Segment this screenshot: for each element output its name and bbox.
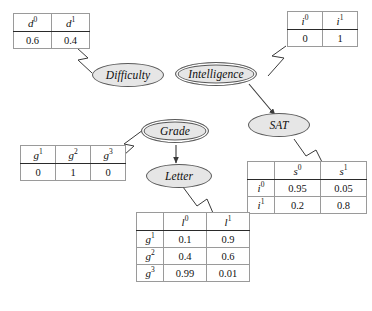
- cell-row-header: g3: [137, 265, 164, 282]
- cell-header: i0: [288, 12, 323, 30]
- table-row: i0 i1: [288, 12, 358, 30]
- cell-corner: [137, 213, 164, 231]
- leader-intelligence-table: [268, 46, 286, 76]
- leader-sat-table: [294, 139, 322, 162]
- node-grade-label: Grade: [160, 125, 190, 137]
- bayesian-network-diagram: Difficulty Intelligence Grade SAT Letter…: [0, 0, 372, 311]
- cell-header: g1: [21, 146, 56, 164]
- cell-header: d1: [52, 14, 90, 32]
- cell-header: g2: [56, 146, 91, 164]
- cell-value: 0.4: [164, 248, 207, 265]
- cell-value: 0: [91, 164, 126, 181]
- cell-header: g3: [91, 146, 126, 164]
- node-difficulty[interactable]: Difficulty: [92, 63, 164, 87]
- cell-value: 0.95: [275, 180, 321, 197]
- cell-value: 0: [288, 30, 323, 47]
- cell-header: s1: [321, 162, 367, 180]
- table-row: g1 0.1 0.9: [137, 231, 250, 248]
- table-row: 0 1: [288, 30, 358, 47]
- cell-value: 0.05: [321, 180, 367, 197]
- cell-row-header: i0: [248, 180, 275, 197]
- node-difficulty-label: Difficulty: [106, 69, 150, 81]
- cell-value: 1: [323, 30, 358, 47]
- leader-letter-table: [183, 187, 213, 213]
- cell-value: 0.99: [164, 265, 207, 282]
- cell-value: 0: [21, 164, 56, 181]
- table-row: i0 0.95 0.05: [248, 180, 367, 197]
- cpt-intelligence: i0 i1 0 1: [287, 11, 358, 47]
- cell-row-header: g1: [137, 231, 164, 248]
- table-row: g2 0.4 0.6: [137, 248, 250, 265]
- table-row: d0 d1: [14, 14, 90, 32]
- table-row: 0.6 0.4: [14, 32, 90, 49]
- edge-intelligence-to-sat: [249, 84, 275, 115]
- cell-row-header: g2: [137, 248, 164, 265]
- cpt-difficulty: d0 d1 0.6 0.4: [13, 13, 90, 49]
- node-sat-label: SAT: [269, 119, 288, 131]
- node-sat[interactable]: SAT: [248, 113, 310, 137]
- cell-header: s0: [275, 162, 321, 180]
- cpt-grade: g1 g2 g3 0 1 0: [20, 145, 126, 181]
- cell-value: 0.4: [52, 32, 90, 49]
- cell-header: d0: [14, 14, 52, 32]
- leader-grade-table: [124, 130, 143, 155]
- cell-value: 0.6: [207, 248, 250, 265]
- cell-header: l1: [207, 213, 250, 231]
- node-letter-label: Letter: [165, 170, 193, 182]
- table-row: 0 1 0: [21, 164, 126, 181]
- cell-value: 0.6: [14, 32, 52, 49]
- node-intelligence-label: Intelligence: [188, 68, 243, 80]
- leader-difficulty-table: [77, 48, 92, 73]
- cell-value: 0.1: [164, 231, 207, 248]
- node-letter[interactable]: Letter: [146, 164, 212, 188]
- table-row: g3 0.99 0.01: [137, 265, 250, 282]
- table-row: i1 0.2 0.8: [248, 197, 367, 214]
- cell-corner: [248, 162, 275, 180]
- cell-value: 0.8: [321, 197, 367, 214]
- node-intelligence[interactable]: Intelligence: [175, 62, 257, 86]
- cell-value: 0.9: [207, 231, 250, 248]
- cpt-sat: s0 s1 i0 0.95 0.05 i1 0.2 0.8: [247, 161, 367, 214]
- cell-row-header: i1: [248, 197, 275, 214]
- cell-value: 0.2: [275, 197, 321, 214]
- table-row: s0 s1: [248, 162, 367, 180]
- cell-value: 1: [56, 164, 91, 181]
- cell-header: i1: [323, 12, 358, 30]
- table-row: l0 l1: [137, 213, 250, 231]
- table-row: g1 g2 g3: [21, 146, 126, 164]
- cell-value: 0.01: [207, 265, 250, 282]
- cell-header: l0: [164, 213, 207, 231]
- node-grade[interactable]: Grade: [141, 119, 209, 143]
- cpt-letter: l0 l1 g1 0.1 0.9 g2 0.4 0.6 g3 0.99 0.01: [136, 212, 250, 282]
